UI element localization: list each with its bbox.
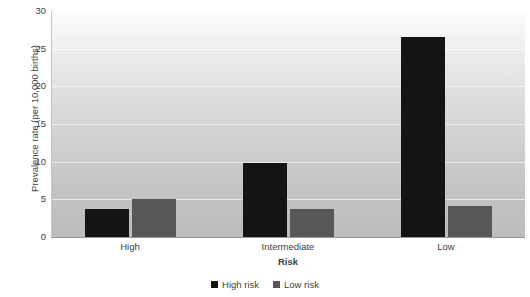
x-axis-tick-label: Low	[437, 241, 454, 252]
gridline	[51, 124, 525, 125]
x-axis-tick-label: Intermediate	[262, 241, 315, 252]
plot-area	[51, 11, 525, 237]
y-axis-tick-label: 20	[20, 82, 46, 92]
y-axis-line	[51, 11, 52, 238]
gridline	[51, 162, 525, 163]
bar	[132, 199, 176, 237]
x-axis-title: Risk	[51, 256, 525, 267]
y-axis-tick-label: 15	[20, 119, 46, 129]
y-axis-tick-label: 5	[20, 195, 46, 205]
x-axis-line	[51, 237, 525, 238]
gridline	[51, 49, 525, 50]
y-axis-tick-label: 10	[20, 157, 46, 167]
legend-entry[interactable]: High risk	[211, 279, 259, 290]
y-axis-tick-label: 25	[20, 44, 46, 54]
legend-label: Low risk	[284, 279, 319, 290]
gridline	[51, 199, 525, 200]
legend-swatch-icon	[211, 281, 218, 288]
legend-swatch-icon	[273, 281, 280, 288]
x-axis-tick-labels: HighIntermediateLow	[51, 241, 525, 255]
legend-label: High risk	[222, 279, 259, 290]
bar	[243, 163, 287, 237]
bar	[401, 37, 445, 237]
bar-chart: Prevalence rate (per 10,000 births) 0510…	[0, 0, 530, 297]
gridline	[51, 11, 525, 12]
bar	[448, 206, 492, 237]
x-axis-tick-label: High	[120, 241, 140, 252]
gridline	[51, 86, 525, 87]
y-axis-tick-label: 30	[20, 6, 46, 16]
legend-entry[interactable]: Low risk	[273, 279, 319, 290]
bar	[85, 209, 129, 237]
chart-legend: High riskLow risk	[0, 279, 530, 290]
bar	[290, 209, 334, 237]
y-axis-tick-label: 0	[20, 232, 46, 242]
y-axis-tick-labels: 051015202530	[20, 11, 46, 237]
